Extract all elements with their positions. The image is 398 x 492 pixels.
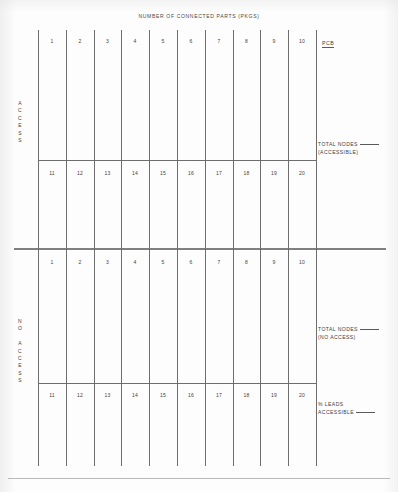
worksheet-page: NUMBER OF CONNECTED PARTS (PKGS) A C C E… [0, 0, 398, 492]
side-label-no-access-char-7: S [14, 377, 26, 384]
total-nodes-accessible-line1: TOTAL NODES [318, 141, 379, 149]
total-nodes-no-access-text: TOTAL NODES [318, 326, 358, 332]
cell-no-access-15[interactable]: 15 [149, 392, 177, 398]
section-divider [14, 248, 386, 250]
total-nodes-accessible-text: TOTAL NODES [318, 141, 358, 147]
cell-access-9[interactable]: 9 [260, 38, 288, 44]
cell-access-13[interactable]: 13 [94, 170, 121, 176]
cell-access-12[interactable]: 12 [66, 170, 94, 176]
percent-leads-accessible-text: ACCESSIBLE [318, 409, 354, 415]
side-label-access-char-4: S [14, 130, 26, 137]
cell-no-access-8[interactable]: 8 [233, 259, 260, 265]
total-nodes-accessible-line2: (ACCESSIBLE) [318, 149, 379, 157]
total-nodes-no-access-blank[interactable] [360, 329, 379, 330]
side-label-no-access-char-3: C [14, 348, 26, 355]
cell-no-access-16[interactable]: 16 [177, 392, 205, 398]
side-label-no-access-char-6: S [14, 370, 26, 377]
cell-no-access-18[interactable]: 18 [233, 392, 260, 398]
cell-no-access-4[interactable]: 4 [121, 259, 149, 265]
side-label-access: A C C E S S [14, 100, 26, 144]
percent-leads-blank[interactable] [356, 412, 375, 413]
side-label-access-char-1: C [14, 107, 26, 114]
cell-no-access-12[interactable]: 12 [66, 392, 94, 398]
total-nodes-no-access-note: TOTAL NODES (NO ACCESS) [318, 326, 379, 341]
total-nodes-accessible-blank[interactable] [360, 144, 379, 145]
side-label-access-char-5: S [14, 137, 26, 144]
total-nodes-accessible-note: TOTAL NODES (ACCESSIBLE) [318, 141, 379, 156]
cell-no-access-2[interactable]: 2 [66, 259, 94, 265]
cell-no-access-7[interactable]: 7 [205, 259, 233, 265]
cell-access-4[interactable]: 4 [121, 38, 149, 44]
side-label-access-char-3: E [14, 122, 26, 129]
side-label-access-char-0: A [14, 100, 26, 107]
total-nodes-no-access-line1: TOTAL NODES [318, 326, 379, 334]
grid-hline-access-row-split [38, 160, 317, 161]
side-label-no-access-char-0: N [14, 318, 26, 325]
cell-no-access-11[interactable]: 11 [38, 392, 66, 398]
cell-access-10[interactable]: 10 [288, 38, 316, 44]
cell-access-14[interactable]: 14 [121, 170, 149, 176]
cell-access-16[interactable]: 16 [177, 170, 205, 176]
percent-leads-line2: ACCESSIBLE [318, 409, 375, 417]
cell-access-1[interactable]: 1 [38, 38, 66, 44]
total-nodes-no-access-line2: (NO ACCESS) [318, 334, 379, 342]
cell-no-access-10[interactable]: 10 [288, 259, 316, 265]
cell-access-18[interactable]: 18 [233, 170, 260, 176]
percent-leads-line1: % LEADS [318, 401, 375, 409]
cell-no-access-1[interactable]: 1 [38, 259, 66, 265]
side-label-no-access-char-5: E [14, 362, 26, 369]
cell-access-2[interactable]: 2 [66, 38, 94, 44]
cell-access-20[interactable]: 20 [288, 170, 316, 176]
cell-no-access-20[interactable]: 20 [288, 392, 316, 398]
page-bottom-edge [8, 478, 390, 479]
paper-tint [0, 0, 398, 492]
cell-no-access-19[interactable]: 19 [260, 392, 288, 398]
cell-access-8[interactable]: 8 [233, 38, 260, 44]
page-title: NUMBER OF CONNECTED PARTS (PKGS) [0, 13, 398, 19]
cell-access-7[interactable]: 7 [205, 38, 233, 44]
cell-no-access-13[interactable]: 13 [94, 392, 121, 398]
cell-no-access-17[interactable]: 17 [205, 392, 233, 398]
cell-access-5[interactable]: 5 [149, 38, 177, 44]
cell-access-11[interactable]: 11 [38, 170, 66, 176]
cell-access-6[interactable]: 6 [177, 38, 205, 44]
cell-no-access-6[interactable]: 6 [177, 259, 205, 265]
cell-no-access-9[interactable]: 9 [260, 259, 288, 265]
cell-access-19[interactable]: 19 [260, 170, 288, 176]
side-label-access-char-2: C [14, 115, 26, 122]
cell-access-3[interactable]: 3 [94, 38, 121, 44]
side-label-no-access-char-2: A [14, 340, 26, 347]
cell-access-15[interactable]: 15 [149, 170, 177, 176]
side-label-no-access-gap [14, 333, 26, 340]
cell-no-access-3[interactable]: 3 [94, 259, 121, 265]
percent-leads-accessible-note: % LEADS ACCESSIBLE [318, 401, 375, 416]
cell-no-access-5[interactable]: 5 [149, 259, 177, 265]
cell-no-access-14[interactable]: 14 [121, 392, 149, 398]
side-label-no-access: N O A C C E S S [14, 318, 26, 385]
side-label-no-access-char-4: C [14, 355, 26, 362]
cell-access-17[interactable]: 17 [205, 170, 233, 176]
pcb-label: PCB [322, 40, 334, 48]
grid-hline-no-access-row-split [38, 383, 317, 384]
side-label-no-access-char-1: O [14, 325, 26, 332]
